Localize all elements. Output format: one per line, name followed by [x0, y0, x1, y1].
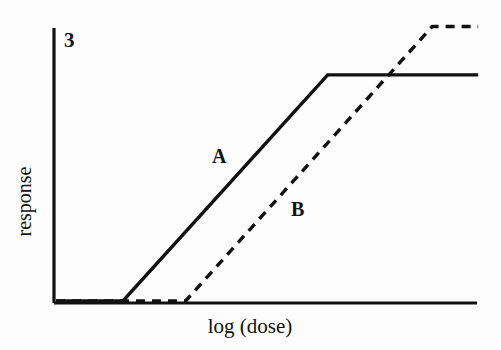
- curve-b-line: [56, 27, 478, 302]
- plot-area: [0, 0, 501, 350]
- figure-number-label: 3: [64, 28, 75, 53]
- curve-a-line: [56, 75, 478, 301]
- x-axis-label: log (dose): [160, 314, 340, 339]
- dose-response-figure: 3 response log (dose) A B: [0, 0, 501, 350]
- curve-a-label: A: [212, 145, 226, 168]
- y-axis-label: response: [13, 142, 36, 262]
- curve-b-label: B: [291, 198, 304, 221]
